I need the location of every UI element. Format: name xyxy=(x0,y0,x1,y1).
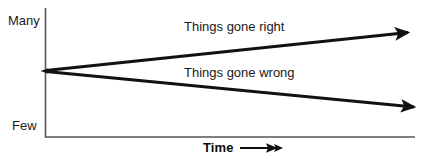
y-axis-label-few: Few xyxy=(12,119,37,132)
x-axis-title-label: Time xyxy=(203,141,234,154)
series-label-things-gone-right: Things gone right xyxy=(182,20,286,33)
x-axis-title: Time xyxy=(203,141,284,154)
right-arrow-icon xyxy=(240,142,284,154)
series-origin-marker xyxy=(41,69,49,74)
y-axis-label-many: Many xyxy=(8,14,40,27)
series-label-things-gone-wrong: Things gone wrong xyxy=(182,66,297,79)
chart-figure: Many Few Things gone right Things gone w… xyxy=(0,0,424,163)
